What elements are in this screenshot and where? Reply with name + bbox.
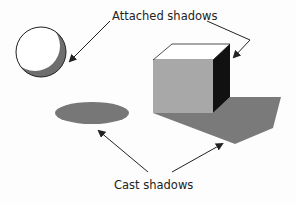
- attached-shadows-label: Attached shadows: [112, 9, 217, 23]
- sphere-lit-surface: [10, 21, 60, 71]
- cast-shadows-label: Cast shadows: [114, 178, 193, 192]
- arrow-to-cube-cast-shadow: [172, 144, 222, 172]
- cube: [153, 44, 230, 113]
- ellipse-cast-shadow: [55, 102, 129, 124]
- diagram-canvas: Attached shadows Cast shadows: [0, 0, 296, 204]
- arrow-to-ellipse-cast-shadow: [99, 131, 148, 172]
- arrow-to-sphere-shadow: [70, 21, 110, 61]
- shadow-diagram: Attached shadows Cast shadows: [0, 0, 296, 204]
- cube-front-face: [153, 60, 213, 113]
- sphere: [10, 21, 66, 77]
